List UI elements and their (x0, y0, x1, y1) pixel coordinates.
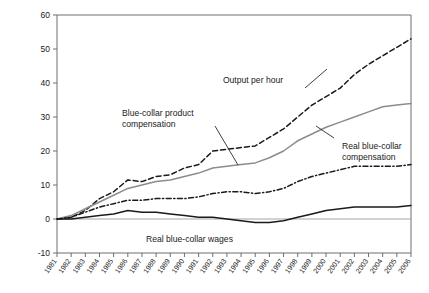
y-tick-label: 50 (41, 44, 51, 54)
y-tick-label: 10 (41, 180, 51, 190)
annotation-blue-collar-product-compensation-line1: Blue-collar product (122, 108, 194, 118)
y-tick-label: 0 (45, 214, 50, 224)
y-tick-label: 30 (41, 112, 51, 122)
y-tick-label: -10 (38, 248, 51, 258)
y-tick-label: 60 (41, 10, 51, 20)
y-tick-label: 40 (41, 78, 51, 88)
annotation-output-per-hour: Output per hour (223, 75, 283, 85)
line-chart: -100102030405060 19811982198319841985198… (0, 0, 429, 293)
y-tick-label: 20 (41, 146, 51, 156)
annotation-real-blue-collar-compensation-line2: compensation (342, 152, 396, 162)
annotation-real-blue-collar-compensation-line1: Real blue-collar (342, 141, 402, 151)
chart-container: -100102030405060 19811982198319841985198… (0, 0, 429, 293)
annotation-real-blue-collar-wages: Real blue-collar wages (146, 234, 233, 244)
annotation-blue-collar-product-compensation-line2: compensation (122, 119, 176, 129)
